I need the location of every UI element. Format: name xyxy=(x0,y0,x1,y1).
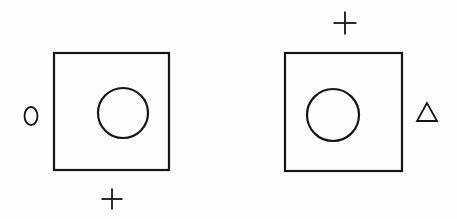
right-panel xyxy=(285,12,437,172)
right-triangle-marker-icon xyxy=(417,103,437,121)
left-inner-circle xyxy=(98,88,148,138)
right-square xyxy=(285,53,402,171)
bottom-plus-marker-icon xyxy=(102,189,123,210)
diagram-svg xyxy=(0,0,457,219)
left-panel xyxy=(25,53,170,210)
top-plus-marker-icon xyxy=(334,12,357,35)
figure-canvas xyxy=(0,0,457,219)
right-inner-circle xyxy=(307,89,359,141)
left-oval-marker-icon xyxy=(25,107,38,125)
left-square xyxy=(54,53,169,170)
